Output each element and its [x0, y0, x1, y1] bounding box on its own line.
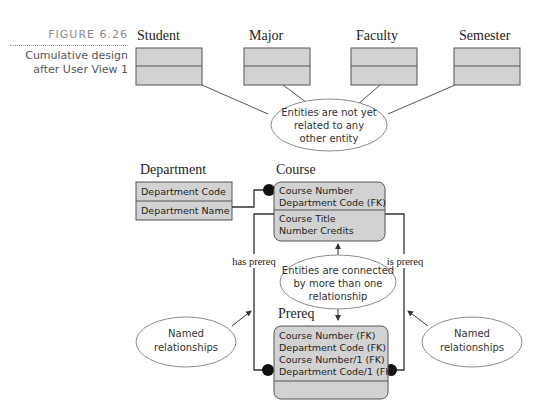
svg-text:relationships: relationships	[440, 342, 504, 353]
attribute: Course Title	[279, 213, 336, 224]
svg-text:by more than one: by more than one	[293, 278, 382, 289]
relationship-label: has prereq	[232, 256, 276, 267]
callout-unrelated: Entities are not yet related to any othe…	[271, 99, 387, 151]
entity-title: Prereq	[278, 306, 315, 321]
entity-title: Course	[276, 162, 316, 177]
key-attribute: Department Code/1 (FK)	[279, 366, 395, 377]
entity-faculty[interactable]: Faculty	[351, 28, 417, 85]
key-attribute: Course Number/1 (FK)	[279, 354, 385, 365]
entity-title: Semester	[459, 28, 511, 43]
entity-title: Major	[249, 28, 284, 43]
entity-title: Faculty	[356, 28, 398, 43]
svg-text:Entities are connected: Entities are connected	[282, 265, 394, 276]
entity-title: Student	[137, 28, 180, 43]
entity-prereq[interactable]: Prereq Course Number (FK) Department Cod…	[274, 306, 395, 399]
entity-student[interactable]: Student	[136, 28, 202, 85]
svg-text:other entity: other entity	[300, 133, 359, 144]
svg-text:relationship: relationship	[309, 291, 368, 302]
attribute: Department Name	[141, 205, 230, 216]
key-attribute: Department Code (FK)	[279, 342, 386, 353]
key-attribute: Department Code (FK)	[279, 197, 386, 208]
er-diagram: Student Major Faculty Semester Entities …	[0, 0, 545, 411]
key-attribute: Course Number (FK)	[279, 330, 375, 341]
entity-semester[interactable]: Semester	[454, 28, 520, 85]
entity-course[interactable]: Course Course Number Department Code (FK…	[274, 162, 386, 241]
svg-text:related to any: related to any	[294, 120, 364, 131]
svg-text:Named: Named	[168, 328, 204, 339]
key-attribute: Course Number	[279, 185, 353, 196]
svg-text:Entities are not yet: Entities are not yet	[281, 107, 377, 118]
entity-department[interactable]: Department Department Code Department Na…	[136, 162, 232, 220]
callout-named-right: Named relationships	[408, 311, 522, 367]
svg-text:Named: Named	[454, 328, 490, 339]
entity-major[interactable]: Major	[244, 28, 310, 85]
relationship-department-course	[232, 184, 275, 207]
svg-text:relationships: relationships	[154, 342, 218, 353]
attribute: Number Credits	[279, 225, 354, 236]
attribute: Department Code	[141, 186, 226, 197]
entity-title: Department	[140, 162, 206, 177]
callout-named-left: Named relationships	[136, 311, 251, 367]
